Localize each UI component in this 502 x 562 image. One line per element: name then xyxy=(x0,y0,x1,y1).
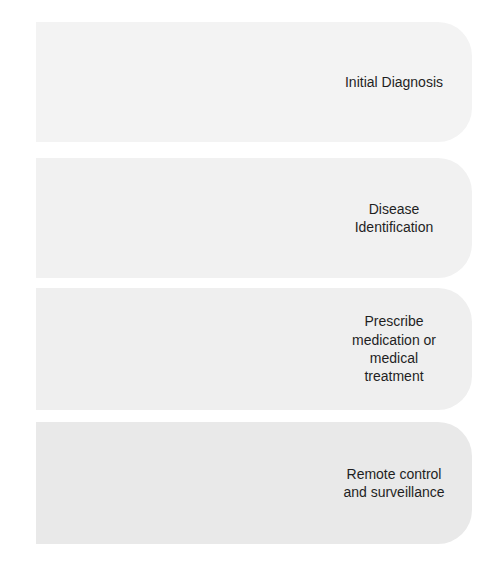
step-description: Prescribe medication or medical treatmen… xyxy=(318,288,470,410)
process-step-row: Long term care Remote control and survei… xyxy=(0,422,502,544)
process-step-row: Emergency care Prescribe medication or m… xyxy=(0,288,502,410)
process-step-row: Specialty care Disease Identification xyxy=(0,158,502,278)
step-description: Remote control and surveillance xyxy=(318,422,470,544)
care-process-diagram: Primary care Initial Diagnosis Specialty… xyxy=(0,0,502,562)
process-step-row: Primary care Initial Diagnosis xyxy=(0,22,502,142)
step-description: Disease Identification xyxy=(318,158,470,278)
step-description: Initial Diagnosis xyxy=(318,22,470,142)
